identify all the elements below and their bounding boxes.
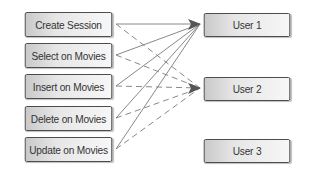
user-2-box: User 2 <box>204 77 290 101</box>
action-select-on-movies: Select on Movies <box>25 43 112 68</box>
user-1-box: User 1 <box>204 13 290 37</box>
edge-update-user2 <box>116 88 200 149</box>
action-delete-on-movies: Delete on Movies <box>25 106 112 131</box>
edge-delete-user2 <box>116 88 200 118</box>
edge-select-user1 <box>116 24 200 55</box>
action-create-session: Create Session <box>25 12 112 37</box>
action-insert-on-movies: Insert on Movies <box>25 74 112 99</box>
edge-delete-user1 <box>116 24 200 118</box>
action-update-on-movies: Update on Movies <box>25 137 112 162</box>
arrowhead-user2-icon <box>188 83 201 94</box>
user-3-box: User 3 <box>204 139 290 163</box>
edge-select-user2 <box>116 55 200 88</box>
